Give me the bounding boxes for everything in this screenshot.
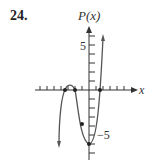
graph	[0, 0, 152, 161]
